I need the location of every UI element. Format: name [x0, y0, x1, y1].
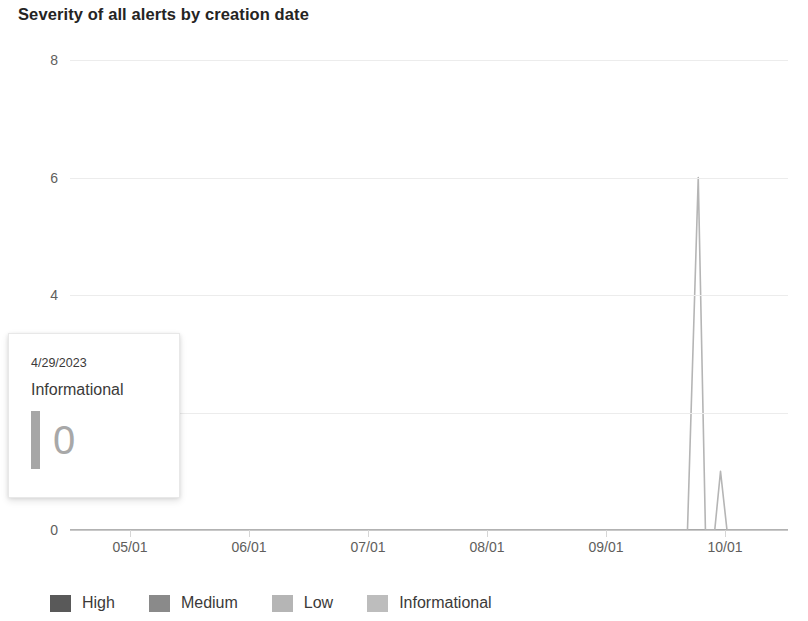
legend-item-medium[interactable]: Medium	[149, 594, 238, 612]
x-tick-label-06-01: 06/01	[231, 539, 266, 555]
x-tick-09-01	[606, 530, 607, 537]
chart-title: Severity of all alerts by creation date	[18, 5, 309, 24]
legend-item-low[interactable]: Low	[272, 594, 333, 612]
alerts-severity-chart-card: Severity of all alerts by creation date …	[0, 0, 808, 621]
gridline-4	[70, 295, 788, 296]
legend-item-high[interactable]: High	[50, 594, 115, 612]
x-tick-label-07-01: 07/01	[350, 539, 385, 555]
tooltip-series-name: Informational	[31, 380, 179, 399]
x-axis: 05/0106/0107/0108/0109/0110/01	[70, 530, 788, 560]
legend-item-informational[interactable]: Informational	[367, 594, 492, 612]
legend-label-medium: Medium	[181, 594, 238, 612]
legend-swatch-medium	[149, 595, 170, 612]
x-tick-label-08-01: 08/01	[469, 539, 504, 555]
tooltip-color-swatch	[31, 411, 40, 469]
chart-tooltip: 4/29/2023 Informational 0	[8, 333, 180, 498]
y-tick-label-0: 0	[14, 522, 58, 538]
legend-swatch-high	[50, 595, 71, 612]
x-tick-08-01	[487, 530, 488, 537]
y-tick-label-4: 4	[14, 287, 58, 303]
x-tick-07-01	[368, 530, 369, 537]
x-tick-label-10-01: 10/01	[707, 539, 742, 555]
tooltip-date: 4/29/2023	[31, 356, 179, 371]
tooltip-value: 0	[53, 420, 75, 460]
legend-label-informational: Informational	[399, 594, 492, 612]
x-tick-label-05-01: 05/01	[112, 539, 147, 555]
tooltip-value-row: 0	[31, 411, 179, 469]
x-tick-label-09-01: 09/01	[588, 539, 623, 555]
legend-label-low: Low	[304, 594, 333, 612]
chart-legend: HighMediumLowInformational	[50, 594, 526, 612]
legend-swatch-low	[272, 595, 293, 612]
y-tick-label-8: 8	[14, 52, 58, 68]
gridline-6	[70, 178, 788, 179]
x-tick-10-01	[725, 530, 726, 537]
x-tick-06-01	[249, 530, 250, 537]
gridline-8	[70, 60, 788, 61]
legend-label-high: High	[82, 594, 115, 612]
x-tick-05-01	[130, 530, 131, 537]
legend-swatch-informational	[367, 595, 388, 612]
y-tick-label-6: 6	[14, 170, 58, 186]
